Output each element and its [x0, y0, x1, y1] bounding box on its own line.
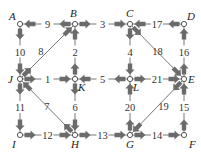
- arrow-icon: [60, 19, 71, 28]
- edge-13: 13: [75, 129, 130, 141]
- directed-network-diagram: 123456789101112131415161718192021 ABCDJK…: [0, 0, 201, 159]
- edge-label: 2: [72, 47, 77, 58]
- arrow-icon: [179, 29, 188, 40]
- edge-label: 1: [45, 74, 50, 85]
- edge-label: 4: [127, 47, 133, 58]
- node-circle: [127, 21, 132, 26]
- edge-4: 4: [124, 24, 136, 79]
- edge-label: 17: [152, 19, 163, 30]
- edge-label: 11: [15, 102, 25, 113]
- node-A: A: [8, 10, 23, 27]
- edge-label: 10: [15, 47, 26, 58]
- arrow-icon: [70, 64, 79, 75]
- edge-3: 3: [75, 18, 130, 30]
- arrow-icon: [70, 29, 79, 40]
- node-J: J: [8, 73, 23, 85]
- node-circle: [127, 132, 132, 137]
- edge-label: 8: [38, 46, 43, 57]
- edge-7: 7: [20, 79, 75, 135]
- edge-15: 15: [178, 79, 190, 135]
- arrow-icon: [15, 120, 24, 131]
- node-label: D: [186, 10, 195, 22]
- node-label: A: [8, 10, 16, 22]
- arrow-icon: [25, 130, 36, 139]
- arrow-icon: [25, 19, 36, 28]
- arrow-icon: [80, 130, 91, 139]
- edge-label: 5: [100, 74, 105, 85]
- edge-label: 16: [179, 47, 190, 58]
- node-circle: [181, 76, 186, 81]
- edge-label: 6: [72, 102, 77, 113]
- edge-18: 18: [130, 24, 184, 79]
- node-label: C: [126, 7, 134, 19]
- arrow-icon: [169, 19, 180, 28]
- node-label: K: [77, 81, 86, 93]
- edge-label: 12: [42, 130, 53, 141]
- node-circle: [17, 21, 22, 26]
- arrow-icon: [15, 84, 24, 95]
- arrow-icon: [115, 74, 126, 83]
- node-circle: [17, 76, 22, 81]
- arrow-icon: [115, 130, 126, 139]
- node-circle: [72, 76, 77, 81]
- arrow-icon: [179, 120, 188, 131]
- node-circle: [72, 132, 77, 137]
- node-circle: [181, 21, 186, 26]
- edge-10: 10: [14, 24, 26, 79]
- arrow-icon: [15, 29, 24, 40]
- arrow-icon: [115, 19, 126, 28]
- edge-label: 14: [152, 130, 163, 141]
- edge-label: 21: [152, 74, 163, 85]
- edge-8: 8: [20, 24, 75, 79]
- arrow-icon: [125, 64, 134, 75]
- node-G: G: [126, 132, 134, 150]
- arrow-icon: [60, 74, 71, 83]
- node-circle: [72, 21, 77, 26]
- arrow-icon: [80, 19, 91, 28]
- arrow-icon: [169, 130, 180, 139]
- edge-label: 3: [100, 19, 105, 30]
- edge-label: 15: [179, 102, 190, 113]
- node-label: F: [188, 138, 196, 150]
- arrow-icon: [135, 130, 146, 139]
- node-circle: [181, 132, 186, 137]
- edge-label: 7: [44, 101, 49, 112]
- node-label: J: [8, 73, 14, 85]
- node-label: H: [70, 138, 80, 150]
- edge-17: 17: [130, 18, 184, 30]
- node-label: B: [70, 7, 77, 19]
- node-label: L: [132, 81, 139, 93]
- edge-label: 9: [45, 19, 50, 30]
- node-F: F: [181, 132, 196, 150]
- node-label: I: [11, 138, 17, 150]
- edge-label: 18: [152, 46, 163, 57]
- node-E: E: [181, 73, 195, 85]
- node-I: I: [11, 132, 23, 150]
- edge-label: 19: [158, 101, 169, 112]
- node-label: G: [126, 138, 134, 150]
- node-circle: [127, 76, 132, 81]
- edge-12: 12: [20, 129, 75, 141]
- node-label: E: [187, 73, 195, 85]
- edges-layer: 123456789101112131415161718192021: [14, 18, 190, 141]
- node-circle: [17, 132, 22, 137]
- node-D: D: [181, 10, 195, 27]
- node-C: C: [126, 7, 134, 27]
- edge-label: 20: [125, 102, 136, 113]
- edge-label: 13: [97, 130, 108, 141]
